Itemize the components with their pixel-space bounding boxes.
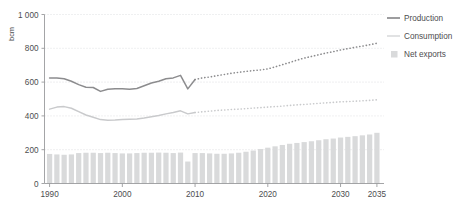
net-exports-bar <box>178 153 183 184</box>
net-exports-bar <box>243 152 248 184</box>
net-exports-bar <box>258 149 263 183</box>
net-exports-bar <box>345 137 350 184</box>
net-exports-bar <box>134 153 139 183</box>
x-tick-label: 2030 <box>331 190 350 199</box>
net-exports-bar <box>280 145 285 184</box>
net-exports-bar <box>316 140 321 183</box>
net-exports-bar <box>98 153 103 183</box>
net-exports-bar <box>192 153 197 183</box>
net-exports-bar <box>229 153 234 183</box>
net-exports-bar <box>163 153 168 184</box>
net-exports-bar <box>142 153 147 184</box>
net-exports-bar <box>149 153 154 184</box>
series-line-projection <box>195 100 377 113</box>
net-exports-bar <box>302 142 307 183</box>
net-exports-bar <box>69 154 74 183</box>
net-exports-bar <box>62 155 67 184</box>
net-exports-bar <box>287 144 292 184</box>
net-exports-bar <box>309 141 314 183</box>
y-tick-label: 1 000 <box>18 11 39 20</box>
net-exports-bar <box>214 154 219 184</box>
series-line-historical <box>50 75 195 91</box>
y-axis-title: bcm <box>7 27 16 41</box>
net-exports-bar <box>272 146 277 183</box>
legend-label: Production <box>404 14 444 23</box>
net-exports-bar <box>352 136 357 183</box>
chart-container: 02004006008001 0001990200020102020203020… <box>0 0 458 220</box>
net-exports-bar <box>374 133 379 184</box>
net-exports-bar <box>83 153 88 184</box>
net-exports-bar <box>323 139 328 183</box>
net-exports-bar <box>185 162 190 184</box>
net-exports-bar <box>294 143 299 184</box>
net-exports-bar <box>156 153 161 184</box>
net-exports-bar <box>251 151 256 184</box>
net-exports-bar <box>91 153 96 184</box>
series-line-historical <box>50 107 195 121</box>
net-exports-bar <box>127 153 132 183</box>
net-exports-bar <box>54 154 59 183</box>
net-exports-bar <box>200 153 205 183</box>
y-tick-label: 600 <box>25 78 39 87</box>
gas-balance-chart: 02004006008001 0001990200020102020203020… <box>0 0 458 220</box>
x-tick-label: 2035 <box>368 190 387 199</box>
net-exports-bar <box>120 153 125 183</box>
net-exports-bar <box>360 135 365 183</box>
legend-label: Consumption <box>404 32 453 41</box>
x-tick-label: 2020 <box>259 190 278 199</box>
net-exports-bar <box>367 134 372 183</box>
series-lines <box>50 43 377 120</box>
x-tick-label: 2000 <box>113 190 132 199</box>
y-tick-label: 400 <box>25 112 39 121</box>
gridlines <box>45 15 385 150</box>
legend-item: Net exports <box>391 50 446 59</box>
net-exports-bar <box>331 139 336 184</box>
legend-label: Net exports <box>404 50 446 59</box>
y-tick-label: 200 <box>25 146 39 155</box>
net-exports-bars <box>47 133 380 184</box>
net-exports-bar <box>207 153 212 183</box>
net-exports-bar <box>338 138 343 184</box>
y-tick-label: 0 <box>34 180 39 189</box>
legend-item: Production <box>387 14 444 23</box>
x-tick-label: 1990 <box>40 190 59 199</box>
net-exports-bar <box>265 148 270 184</box>
x-tick-label: 2010 <box>186 190 205 199</box>
net-exports-bar <box>222 154 227 184</box>
legend-item: Consumption <box>387 32 453 41</box>
chart-legend: ProductionConsumptionNet exports <box>387 14 453 59</box>
y-tick-label: 800 <box>25 44 39 53</box>
net-exports-bar <box>112 153 117 183</box>
legend-swatch-icon <box>391 51 398 58</box>
net-exports-bar <box>236 153 241 184</box>
net-exports-bar <box>76 153 81 183</box>
net-exports-bar <box>47 154 52 184</box>
net-exports-bar <box>171 153 176 183</box>
net-exports-bar <box>105 153 110 184</box>
